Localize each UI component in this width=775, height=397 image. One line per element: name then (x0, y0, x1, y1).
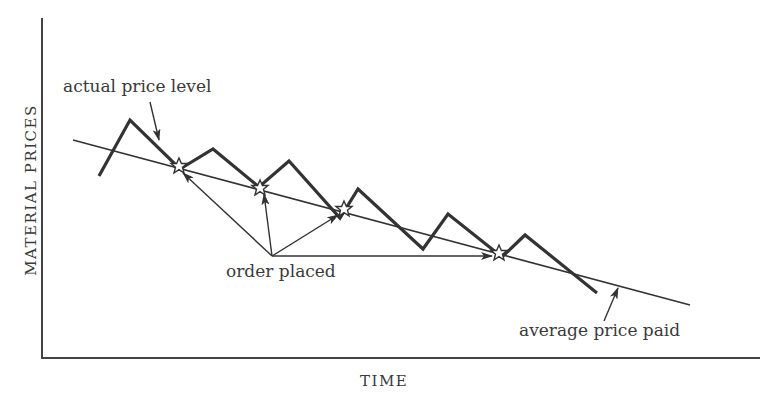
actual-price-level-label: actual price level (63, 76, 211, 96)
order-placed-label: order placed (226, 261, 336, 281)
star-icon (171, 158, 187, 173)
y-axis-label: MATERIAL PRICES (22, 104, 40, 276)
order-arrow-2 (264, 194, 272, 256)
axes (41, 18, 760, 358)
star-icon (491, 245, 507, 260)
order-arrow-3 (272, 215, 338, 256)
price-diagram: actual price level order placed average … (0, 0, 775, 397)
x-axis-label: TIME (360, 372, 408, 390)
actual-price-pointer-arrow (150, 102, 159, 140)
average-price-pointer-arrow (604, 288, 618, 321)
order-placed-arrows (183, 173, 492, 256)
average-price-trend-line (73, 140, 690, 305)
average-price-paid-label: average price paid (519, 320, 680, 340)
